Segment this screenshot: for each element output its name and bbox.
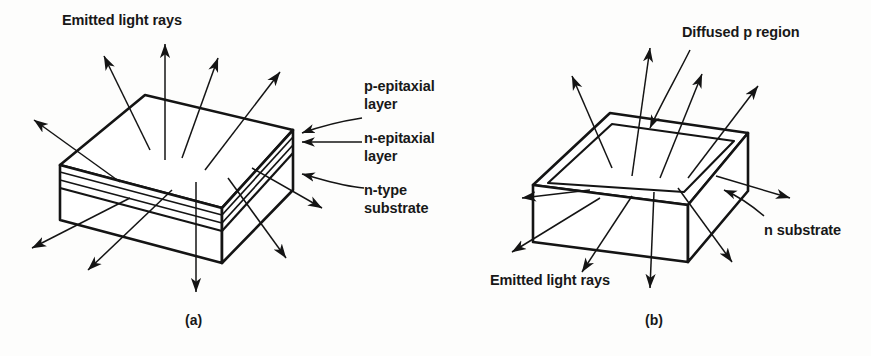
label-panel-b-emitted-light-rays: Emitted light rays — [490, 272, 610, 289]
label-n-type-substrate-line1: n-type — [364, 182, 407, 199]
label-diffused-p-region: Diffused p region — [682, 24, 800, 41]
leader-diffused-p-region — [650, 50, 690, 128]
diagram-canvas — [0, 0, 871, 356]
label-n-substrate: n substrate — [764, 222, 841, 239]
label-p-epitaxial-line2: layer — [364, 96, 397, 113]
label-n-type-substrate-line2: substrate — [364, 200, 428, 217]
label-n-epitaxial-line1: n-epitaxial — [364, 130, 435, 147]
leader-n-type-substrate — [302, 174, 364, 188]
label-n-epitaxial-line2: layer — [364, 148, 397, 165]
leader-p-epitaxial — [302, 118, 362, 133]
panel-a-block — [60, 95, 293, 263]
caption-panel-a: (a) — [185, 312, 202, 328]
caption-panel-b: (b) — [645, 312, 663, 328]
label-panel-a-emitted-light-rays: Emitted light rays — [62, 12, 182, 29]
panel-a-leaders — [302, 118, 364, 188]
label-p-epitaxial-line1: p-epitaxial — [364, 78, 435, 95]
figure-root: Emitted light rays p-epitaxial layer n-e… — [0, 0, 871, 356]
